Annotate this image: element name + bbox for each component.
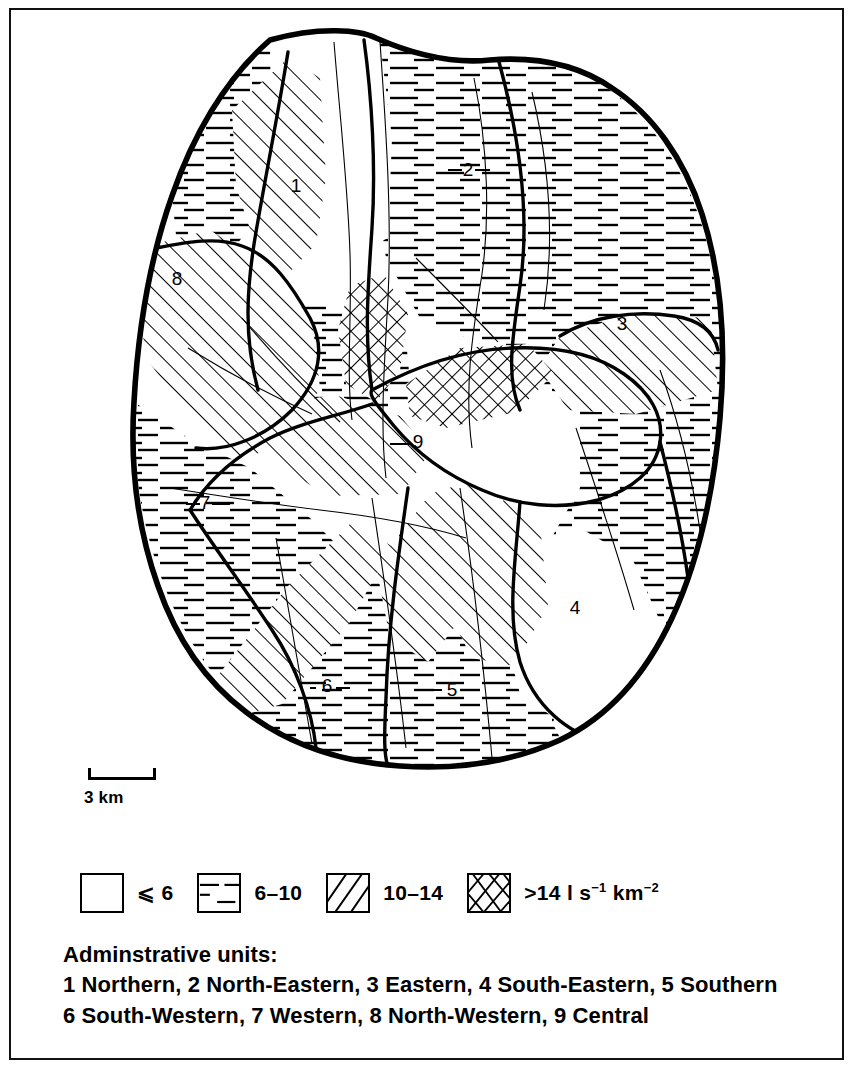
legend-label-lt6: ⩽ 6 (137, 881, 173, 905)
map-label-5: 5 (447, 679, 458, 700)
legend-label-gt14: >14 l s−1 km−2 (524, 881, 659, 905)
map-label-9: 9 (413, 431, 424, 452)
legend-gt14-exp1: −1 (591, 880, 606, 895)
legend-swatch-dash (197, 873, 241, 913)
caption-block: Adminstrative units: 1 Northern, 2 North… (63, 940, 833, 1031)
scale-bar: 3 km (78, 762, 208, 822)
legend-label-6-10: 6–10 (254, 881, 302, 905)
legend-gt14-exp2: −2 (644, 880, 659, 895)
scale-bar-label: 3 km (84, 788, 124, 808)
region-area-cross-east (406, 344, 554, 428)
map-label-2: 2 (463, 159, 474, 180)
scale-bar-line (88, 768, 156, 780)
caption-line-2: 6 South-Western, 7 Western, 8 North-West… (63, 1001, 833, 1031)
map-label-4: 4 (570, 597, 581, 618)
map-label-7: 7 (200, 492, 211, 513)
map-label-8: 8 (172, 268, 183, 289)
legend-item-gt14: >14 l s−1 km−2 (467, 873, 683, 913)
map-regions (132, 40, 721, 766)
legend-label-10-14: 10–14 (383, 881, 443, 905)
map-legend: ⩽ 6 6–10 (80, 868, 820, 918)
map-label-3: 3 (617, 313, 628, 334)
map-label-6: 6 (322, 675, 333, 696)
legend-swatch-hatch (326, 873, 370, 913)
caption-heading: Adminstrative units: (63, 940, 833, 970)
legend-gt14-prefix: >14 l s (524, 881, 591, 904)
map-label-1: 1 (291, 175, 302, 196)
legend-swatch-cross (467, 873, 511, 913)
legend-item-6-10: 6–10 (197, 873, 326, 913)
legend-gt14-mid: km (607, 881, 644, 904)
map-canvas: 1 2 3 4 5 6 7 8 9 (20, 18, 835, 778)
figure-page: 1 2 3 4 5 6 7 8 9 (0, 0, 855, 1077)
legend-item-lt6: ⩽ 6 (80, 873, 197, 913)
legend-item-10-14: 10–14 (326, 873, 467, 913)
legend-swatch-blank (80, 873, 124, 913)
caption-line-1: 1 Northern, 2 North-Eastern, 3 Eastern, … (63, 970, 833, 1000)
